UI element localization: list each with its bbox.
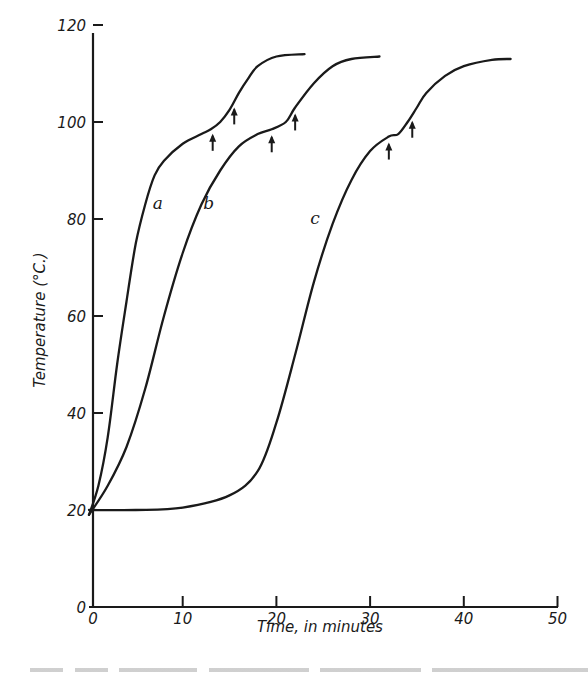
truncated-caption [30,668,588,672]
x-tick-label: 40 [454,610,473,628]
axes [89,33,558,608]
curve-c [89,59,511,510]
arrow-up-icon [268,135,275,152]
y-tick-label: 20 [67,502,86,520]
y-tick-label: 60 [67,308,86,326]
x-tick-label: 50 [548,610,567,628]
y-ticks: 020406080100120 [57,17,103,617]
curve-a [89,54,305,515]
curve-label-a: a [153,193,163,213]
curve-label-b: b [203,193,214,213]
y-axis-title: Temperature (°C.) [31,252,49,387]
arrow-up-icon [409,121,416,138]
arrow-up-icon [231,107,238,124]
y-tick-label: 0 [76,599,86,617]
arrow-up-icon [209,134,216,151]
curve-b [89,57,380,515]
arrow-up-icon [385,143,392,160]
curve-labels: abc [153,193,320,228]
x-axis-title: Time, in minutes [257,618,383,636]
arrow-up-icon [292,113,299,130]
transition-arrows [209,107,416,159]
x-tick-label: 0 [88,610,98,628]
chart-canvas: 020406080100120 01020304050 Time, in min… [0,0,588,679]
curves [89,54,511,515]
x-tick-label: 10 [173,610,192,628]
y-tick-label: 100 [57,114,86,132]
curve-label-c: c [310,208,320,228]
y-tick-label: 80 [67,211,86,229]
y-tick-label: 120 [57,17,86,35]
y-tick-label: 40 [67,405,86,423]
